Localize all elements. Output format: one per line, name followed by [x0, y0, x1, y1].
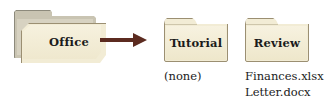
folder-contents-tutorial: (none) — [164, 68, 202, 84]
folder-group-tutorial: Tutorial (none) — [164, 18, 228, 62]
arrow-right-icon — [100, 33, 148, 47]
folder-label-review: Review — [245, 18, 309, 62]
folder-contents-review: Finances.xlsx Letter.docx — [245, 68, 324, 100]
folder-content-item: Finances.xlsx — [245, 68, 324, 84]
arrow-shaft — [100, 38, 136, 42]
folder-diagram: Office Tutorial (none) Review Finances.x… — [0, 0, 334, 106]
arrow-head — [133, 33, 147, 47]
folder-label-tutorial: Tutorial — [164, 18, 228, 62]
folder-icon-review[interactable]: Review — [245, 18, 309, 62]
open-folder-office[interactable]: Office — [14, 10, 106, 63]
open-folder-label: Office — [14, 10, 106, 63]
folder-content-item: (none) — [164, 68, 202, 84]
folder-icon-tutorial[interactable]: Tutorial — [164, 18, 228, 62]
folder-content-item: Letter.docx — [245, 84, 324, 100]
folder-group-review: Review Finances.xlsx Letter.docx — [245, 18, 309, 62]
